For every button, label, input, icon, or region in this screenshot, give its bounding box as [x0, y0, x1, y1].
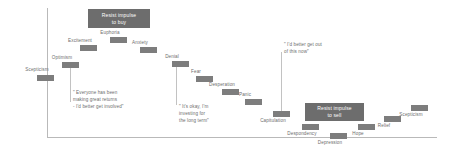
callout-resist-impulse-to-sell: Resist impulse to sell	[305, 103, 364, 121]
marker-bar-panic	[245, 99, 262, 105]
marker-label-scepticism-end: Scepticism	[399, 113, 422, 118]
quote-denial: " It's okay, I'm investing for the long …	[179, 104, 209, 125]
marker-label-panic: Panic	[239, 93, 251, 98]
quote-panic: " I'd better get out of this now"	[284, 42, 322, 56]
marker-bar-anxiety	[140, 47, 157, 53]
marker-label-despondency: Despondency	[287, 132, 316, 137]
marker-label-anxiety: Anxiety	[132, 41, 148, 46]
marker-bar-hope	[358, 124, 375, 130]
stem-optimism-to-quote	[70, 68, 71, 102]
stem-panic-to-quote	[281, 52, 282, 111]
callout-resist-sell-line2: to sell	[317, 112, 352, 119]
marker-label-capitulation: Capitulation	[260, 119, 286, 124]
axis-horizontal-line	[47, 137, 437, 138]
marker-label-euphoria: Euphoria	[100, 31, 119, 36]
marker-label-desperation: Desperation	[209, 83, 235, 88]
marker-bar-scepticism-end	[411, 105, 428, 111]
callout-resist-buy-line2: to buy	[102, 19, 137, 26]
marker-label-fear: Fear	[191, 70, 201, 75]
marker-bar-euphoria	[110, 37, 127, 43]
marker-label-optimism: Optimism	[52, 56, 72, 61]
callout-resist-sell-line1: Resist impulse	[317, 105, 352, 112]
marker-bar-denial	[172, 61, 189, 67]
marker-label-denial: Denial	[165, 55, 179, 60]
marker-label-scepticism-start: Scepticism	[25, 68, 48, 73]
marker-bar-excitement	[80, 45, 97, 51]
stem-denial-to-quote	[176, 67, 177, 105]
marker-bar-depression	[330, 133, 347, 139]
marker-bar-scepticism-start	[37, 75, 54, 81]
marker-label-depression: Depression	[318, 141, 342, 146]
axis-vertical-line	[47, 8, 48, 138]
marker-bar-capitulation	[273, 111, 290, 117]
quote-optimism: " Everyone has been making great returns…	[73, 90, 124, 111]
marker-bar-desperation	[222, 89, 239, 95]
callout-resist-impulse-to-buy: Resist impulse to buy	[88, 9, 150, 28]
investor-emotion-cycle-diagram: Resist impulse to buy Resist impulse to …	[0, 0, 456, 161]
marker-label-relief: Relief	[378, 124, 390, 129]
marker-label-hope: Hope	[352, 132, 363, 137]
marker-label-excitement: Excitement	[68, 39, 92, 44]
callout-resist-buy-line1: Resist impulse	[102, 12, 137, 19]
marker-bar-despondency	[302, 124, 319, 130]
